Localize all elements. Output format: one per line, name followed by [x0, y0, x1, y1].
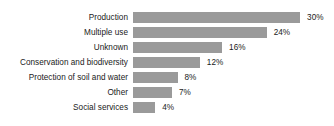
bar-social-services — [133, 102, 155, 113]
table-row: Multiple use 24% — [0, 26, 334, 41]
value-label-conservation-and-biodiversity: 12% — [207, 56, 223, 71]
table-row: Conservation and biodiversity 12% — [0, 56, 334, 71]
category-label-other: Other — [107, 86, 128, 101]
table-row: Social services 4% — [0, 101, 334, 116]
category-label-social-services: Social services — [73, 101, 128, 116]
value-label-multiple-use: 24% — [274, 26, 290, 41]
category-label-production: Production — [89, 11, 128, 26]
table-row: Other 7% — [0, 86, 334, 101]
bar-track-multiple-use — [133, 27, 267, 38]
category-label-protection-of-soil-and-water: Protection of soil and water — [29, 71, 128, 86]
category-label-unknown: Unknown — [94, 41, 128, 56]
value-label-social-services: 4% — [162, 101, 174, 116]
bar-multiple-use — [133, 27, 267, 38]
bar-production — [133, 12, 300, 23]
category-label-multiple-use: Multiple use — [84, 26, 128, 41]
bar-track-production — [133, 12, 300, 23]
table-row: Production 30% — [0, 11, 334, 26]
bar-track-protection-of-soil-and-water — [133, 72, 178, 83]
bar-protection-of-soil-and-water — [133, 72, 178, 83]
value-label-unknown: 16% — [229, 41, 245, 56]
bar-conservation-and-biodiversity — [133, 57, 200, 68]
bar-other — [133, 87, 172, 98]
bar-track-other — [133, 87, 172, 98]
bar-unknown — [133, 42, 222, 53]
table-row: Protection of soil and water 8% — [0, 71, 334, 86]
value-label-other: 7% — [179, 86, 191, 101]
bar-chart-rows: Production 30% Multiple use 24% Unknown … — [0, 11, 334, 116]
value-label-production: 30% — [307, 11, 323, 26]
value-label-protection-of-soil-and-water: 8% — [185, 71, 197, 86]
bar-track-unknown — [133, 42, 222, 53]
bar-track-social-services — [133, 102, 155, 113]
category-label-conservation-and-biodiversity: Conservation and biodiversity — [20, 56, 128, 71]
table-row: Unknown 16% — [0, 41, 334, 56]
bar-track-conservation-and-biodiversity — [133, 57, 200, 68]
bar-chart: Production 30% Multiple use 24% Unknown … — [0, 0, 334, 126]
